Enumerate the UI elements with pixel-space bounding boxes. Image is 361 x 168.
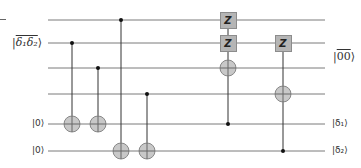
input-label-group: |δ₁δ₂⟩ [12, 36, 42, 49]
output-label-group-text: 00 [337, 50, 351, 63]
control-dot-icon [226, 122, 230, 126]
margin-dash [0, 19, 6, 20]
control-dot-icon [119, 18, 123, 22]
output-label-group: |00⟩ [333, 50, 355, 63]
z-gate: Z [275, 35, 292, 52]
control-dot-icon [281, 149, 285, 153]
quantum-circuit [0, 0, 361, 168]
input-label-group-text: δ₁δ₂ [16, 36, 38, 49]
input-label-q6: |0⟩ [32, 145, 44, 155]
gates [64, 18, 291, 159]
output-label-q6: |δ₂⟩ [332, 145, 348, 155]
input-label-q5: |0⟩ [32, 118, 44, 128]
z-gate: Z [220, 35, 237, 52]
control-dot-icon [96, 66, 100, 70]
z-gate: Z [220, 12, 237, 29]
control-dot-icon [145, 92, 149, 96]
output-label-q5: |δ₁⟩ [332, 118, 348, 128]
control-dot-icon [70, 41, 74, 45]
